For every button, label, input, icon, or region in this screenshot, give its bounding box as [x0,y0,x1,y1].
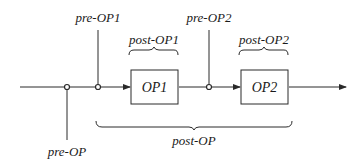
pre-op1-label: pre-OP1 [74,10,120,25]
op1-label: OP1 [142,80,168,95]
post-op2-label: post-OP2 [238,32,289,47]
node-pre-op2 [207,85,212,90]
post-op1-brace [129,47,178,55]
pre-op2-label: pre-OP2 [185,10,232,25]
node-pre-op1 [96,85,101,90]
flow-diagram: OP1 OP2 pre-OP1 pre-OP2 post-OP1 post-OP… [0,0,362,167]
post-op2-brace [239,47,288,55]
op2-label: OP2 [252,80,278,95]
pre-op-label: pre-OP [47,144,87,159]
node-pre-op [65,85,70,90]
post-op1-label: post-OP1 [128,32,179,47]
post-op-label: post-OP [171,133,215,148]
post-op-brace [96,121,292,130]
